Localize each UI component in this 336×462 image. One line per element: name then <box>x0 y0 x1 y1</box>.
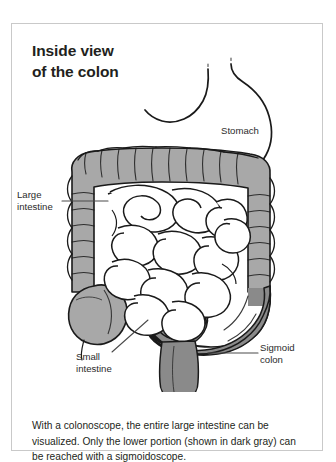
anatomy-illustration <box>12 24 322 392</box>
label-small-intestine: Small intestine <box>76 351 112 374</box>
label-sigmoid-colon: Sigmoid colon <box>260 342 295 365</box>
small-intestine <box>104 185 250 341</box>
figure-card: Inside view of the colon <box>11 23 323 451</box>
illustration-area: Inside view of the colon <box>12 24 322 392</box>
figure-caption: With a colonoscope, the entire large int… <box>32 418 308 462</box>
label-large-intestine: Large intestine <box>17 189 53 212</box>
label-stomach: Stomach <box>221 125 259 137</box>
